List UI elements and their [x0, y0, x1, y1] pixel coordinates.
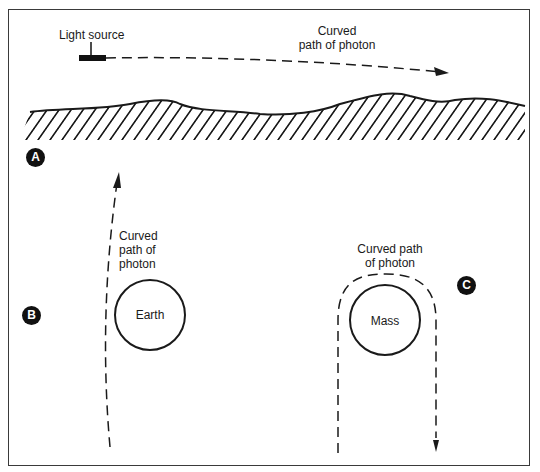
photon-path-b-label: Curved path of photon — [119, 229, 158, 271]
photon-path-c-label: Curved path of photon — [340, 242, 440, 270]
mass-label: Mass — [363, 314, 407, 328]
panel-b-badge: B — [22, 306, 41, 325]
panel-c-badge: C — [457, 276, 476, 295]
panel-a-badge: A — [26, 148, 45, 167]
photon-path-b — [106, 172, 121, 447]
ground-hatch — [15, 90, 530, 145]
light-source-icon — [79, 42, 106, 61]
photon-path-a — [106, 58, 449, 76]
earth-label: Earth — [130, 308, 170, 322]
light-source-label: Light source — [59, 28, 124, 42]
photon-path-c — [338, 274, 439, 453]
photon-path-a-label: Curved path of photon — [272, 24, 402, 52]
diagram-canvas — [0, 0, 540, 472]
